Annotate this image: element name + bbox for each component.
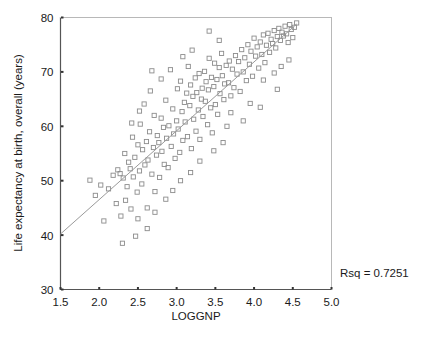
data-point — [204, 80, 208, 84]
data-point — [99, 183, 103, 187]
data-point — [206, 123, 210, 127]
data-point — [188, 83, 192, 87]
y-tick-labels: 304050607080 — [41, 12, 54, 296]
scatter-points — [88, 21, 299, 246]
x-tick — [137, 287, 139, 290]
y-tick — [61, 71, 64, 73]
data-point — [111, 173, 115, 177]
data-point — [175, 87, 179, 91]
data-point — [140, 182, 144, 186]
data-point — [257, 66, 261, 70]
data-point — [200, 86, 204, 90]
data-point — [269, 37, 273, 41]
data-point — [178, 79, 182, 83]
data-point — [180, 110, 184, 114]
y-tick-label: 70 — [41, 66, 54, 78]
data-point — [291, 36, 295, 40]
data-point — [160, 149, 164, 153]
data-point — [119, 214, 123, 218]
data-point — [252, 36, 256, 40]
data-point — [194, 129, 198, 133]
data-point — [153, 189, 157, 193]
data-point — [143, 163, 147, 167]
x-tick-label: 4.0 — [246, 296, 262, 308]
data-point — [159, 116, 163, 120]
data-point — [267, 50, 271, 54]
data-point — [189, 147, 193, 151]
data-point — [133, 155, 137, 159]
data-point — [120, 241, 124, 245]
data-point — [88, 178, 92, 182]
data-point — [213, 102, 217, 106]
data-point — [288, 22, 292, 26]
data-point — [238, 89, 242, 93]
data-point — [145, 206, 149, 210]
data-point — [272, 71, 276, 75]
y-tick — [61, 125, 64, 127]
data-point — [190, 48, 194, 52]
data-point — [215, 77, 219, 81]
data-point — [137, 169, 141, 173]
data-point — [185, 91, 189, 95]
data-point — [212, 61, 216, 65]
data-point — [171, 188, 175, 192]
data-point — [134, 234, 138, 238]
x-tick-label: 5.0 — [324, 296, 340, 308]
data-point — [221, 141, 225, 145]
data-point — [219, 51, 223, 55]
data-point — [140, 148, 144, 152]
data-point — [201, 114, 205, 118]
data-point — [275, 87, 279, 91]
data-point — [130, 121, 134, 125]
data-point — [274, 46, 278, 50]
data-point — [233, 53, 237, 57]
x-axis-title: LOGGNP — [171, 310, 221, 322]
data-point — [188, 104, 192, 108]
data-point — [142, 102, 146, 106]
data-point — [229, 94, 233, 98]
scatter-plot-figure: 1.52.02.53.03.54.04.55.0 304050607080 LO… — [0, 0, 430, 349]
data-point — [178, 150, 182, 154]
x-tick-label: 1.5 — [53, 296, 69, 308]
data-point — [185, 135, 189, 139]
data-point — [249, 49, 253, 53]
data-point — [150, 172, 154, 176]
data-point — [145, 226, 149, 230]
y-tick — [61, 180, 64, 182]
data-point — [250, 74, 254, 78]
data-point — [173, 156, 177, 160]
data-point — [178, 179, 182, 183]
data-point — [210, 131, 214, 135]
data-point — [171, 107, 175, 111]
data-point — [230, 67, 234, 71]
data-point — [258, 40, 262, 44]
y-tick-label: 60 — [41, 121, 54, 133]
data-point — [198, 159, 202, 163]
data-point — [146, 158, 150, 162]
x-tick — [98, 287, 100, 290]
data-point — [136, 217, 140, 221]
data-point — [241, 119, 245, 123]
y-tick-label: 40 — [41, 230, 54, 242]
data-point — [229, 111, 233, 115]
data-point — [263, 61, 267, 65]
data-point — [93, 193, 97, 197]
data-point — [123, 151, 127, 155]
y-tick — [61, 17, 64, 19]
data-point — [135, 190, 139, 194]
data-point — [168, 68, 172, 72]
data-point — [169, 144, 173, 148]
data-point — [150, 69, 154, 73]
data-point — [123, 198, 127, 202]
data-point — [258, 105, 262, 109]
data-point — [261, 33, 265, 37]
x-tick-label: 3.0 — [169, 296, 185, 308]
data-point — [206, 88, 210, 92]
data-point — [264, 43, 268, 47]
data-point — [255, 45, 259, 49]
data-point — [248, 101, 252, 105]
data-point — [181, 55, 185, 59]
x-tick — [292, 287, 294, 290]
chart-svg: 1.52.02.53.03.54.04.55.0 304050607080 LO… — [0, 0, 430, 349]
data-point — [125, 185, 129, 189]
